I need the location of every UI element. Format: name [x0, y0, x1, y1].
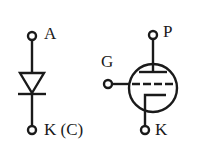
plate-terminal-icon	[149, 31, 157, 39]
tube-cathode-terminal-icon	[141, 126, 149, 134]
diode-icon	[18, 32, 46, 134]
grid-label: G	[101, 53, 113, 70]
vacuum-triode-icon	[104, 31, 177, 134]
plate-label: P	[163, 23, 172, 40]
anode-terminal-icon	[28, 32, 36, 40]
tube-cathode-label: K	[155, 121, 167, 138]
anode-label: A	[44, 25, 56, 42]
diode-cathode-label: K (C)	[44, 121, 83, 138]
diagram-canvas: A K (C) P G K	[0, 0, 199, 163]
cathode-terminal-icon	[28, 126, 36, 134]
grid-terminal-icon	[104, 80, 112, 88]
